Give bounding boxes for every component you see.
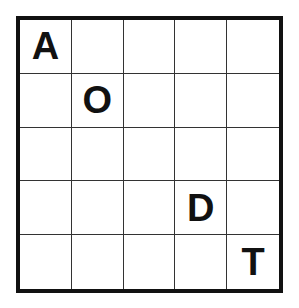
cell-r4-c1[interactable]	[72, 235, 124, 289]
cell-r2-c0[interactable]	[20, 128, 72, 182]
cell-r4-c3[interactable]	[175, 235, 227, 289]
cell-r0-c3[interactable]	[175, 20, 227, 74]
cell-r1-c0[interactable]	[20, 74, 72, 128]
cell-r0-c1[interactable]	[72, 20, 124, 74]
cell-r0-c0[interactable]: A	[20, 20, 72, 74]
cell-r1-c3[interactable]	[175, 74, 227, 128]
cell-r2-c4[interactable]	[227, 128, 279, 182]
puzzle-grid: A O D T	[16, 16, 283, 293]
cell-r0-c4[interactable]	[227, 20, 279, 74]
cell-r1-c4[interactable]	[227, 74, 279, 128]
cell-r3-c4[interactable]	[227, 181, 279, 235]
cell-r4-c4[interactable]: T	[227, 235, 279, 289]
cell-r2-c3[interactable]	[175, 128, 227, 182]
cell-r3-c3[interactable]: D	[175, 181, 227, 235]
cell-r4-c0[interactable]	[20, 235, 72, 289]
cell-r1-c2[interactable]	[124, 74, 176, 128]
cell-r0-c2[interactable]	[124, 20, 176, 74]
cell-r2-c1[interactable]	[72, 128, 124, 182]
cell-r4-c2[interactable]	[124, 235, 176, 289]
cell-r2-c2[interactable]	[124, 128, 176, 182]
cell-r1-c1[interactable]: O	[72, 74, 124, 128]
cell-r3-c0[interactable]	[20, 181, 72, 235]
cell-r3-c1[interactable]	[72, 181, 124, 235]
cell-r3-c2[interactable]	[124, 181, 176, 235]
